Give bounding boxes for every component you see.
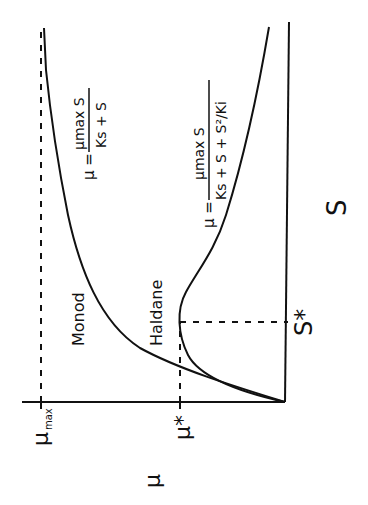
svg-text:μ*: μ* (170, 415, 195, 440)
s-star-label: S* (290, 309, 318, 336)
haldane-curve (179, 27, 285, 402)
svg-text:μmax S: μmax S (71, 97, 87, 150)
svg-text:Monod: Monod (69, 292, 88, 346)
svg-text:μ: μ (28, 432, 53, 446)
mu-max-label: μ max (28, 408, 54, 446)
svg-text:Haldane: Haldane (147, 280, 166, 346)
svg-text:S*: S* (290, 309, 318, 336)
monod-haldane-diagram: μ max μ* μ S* S Monod Haldane μ = μmax S… (0, 0, 368, 505)
svg-text:μ =: μ = (80, 153, 98, 180)
s-axis (285, 22, 289, 402)
svg-text:μ: μ (140, 474, 165, 488)
haldane-label: Haldane (147, 280, 166, 346)
svg-text:μ =: μ = (200, 201, 218, 228)
svg-text:Ks + S: Ks + S (93, 102, 109, 148)
svg-text:μmax S: μmax S (191, 127, 207, 180)
mu-axis-label: μ (140, 474, 165, 488)
svg-text:S: S (322, 199, 352, 216)
monod-equation: μ = μmax S Ks + S (71, 88, 109, 180)
diagram-svg: μ max μ* μ S* S Monod Haldane μ = μmax S… (0, 0, 368, 505)
s-axis-label: S (322, 199, 352, 216)
mu-star-label: μ* (170, 415, 195, 440)
monod-label: Monod (69, 292, 88, 346)
haldane-equation: μ = μmax S Ks + S + S²/Ki (191, 80, 229, 228)
svg-text:max: max (43, 408, 54, 430)
svg-text:Ks + S + S²/Ki: Ks + S + S²/Ki (213, 101, 229, 200)
